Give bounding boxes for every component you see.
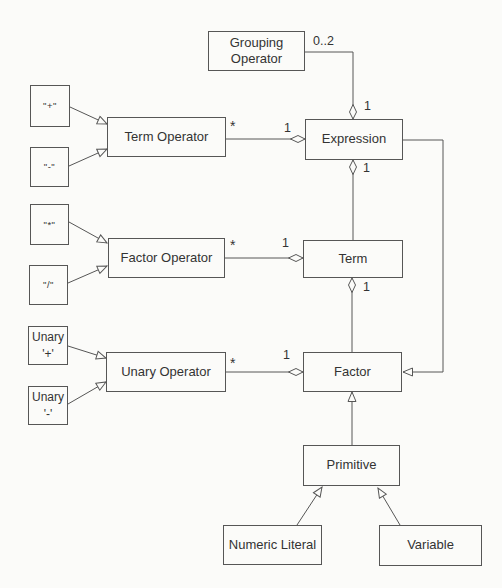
- multiplicity-unary-operator: *: [230, 355, 235, 371]
- class-divide-literal-label: "/": [43, 279, 54, 291]
- class-variable: Variable: [379, 525, 482, 566]
- class-expression: Expression: [305, 119, 403, 160]
- edge-divide-factor-operator-generalization: [68, 266, 107, 283]
- class-unary-minus-line1: Unary: [32, 389, 64, 405]
- class-unary-plus-line2: '+': [42, 346, 54, 362]
- multiplicity-factor-left: 1: [283, 348, 290, 362]
- class-unary-plus: Unary '+': [28, 326, 68, 365]
- class-factor-label: Factor: [334, 364, 371, 380]
- edge-numeric-literal-primitive-generalization: [297, 487, 322, 525]
- class-expression-label: Expression: [322, 131, 386, 147]
- edge-unary-plus-unary-operator-generalization: [68, 346, 106, 358]
- class-divide-literal: "/": [29, 265, 68, 305]
- class-unary-minus-line2: '-': [44, 406, 53, 422]
- edge-expression-factor-generalization: [403, 140, 443, 372]
- class-variable-label: Variable: [407, 537, 454, 553]
- class-unary-plus-line1: Unary: [32, 329, 64, 345]
- class-unary-minus: Unary '-': [28, 386, 68, 425]
- class-term-operator-label: Term Operator: [125, 129, 209, 145]
- class-plus-literal-label: "+": [43, 100, 57, 112]
- uml-class-diagram: Grouping Operator "+" Term Operator Expr…: [0, 0, 502, 588]
- class-unary-operator: Unary Operator: [106, 352, 226, 392]
- class-factor-operator-label: Factor Operator: [121, 250, 213, 266]
- connector-layer: [0, 0, 502, 588]
- class-times-literal: "*": [30, 204, 69, 245]
- class-term-operator: Term Operator: [107, 117, 226, 157]
- edge-grouping-operator-expression: [305, 52, 353, 119]
- multiplicity-factor-operator: *: [230, 237, 235, 253]
- multiplicity-expression-top: 1: [364, 99, 371, 113]
- multiplicity-term-bottom: 1: [363, 280, 370, 294]
- edge-variable-primitive-generalization: [378, 488, 400, 525]
- class-term-label: Term: [339, 251, 368, 267]
- class-primitive: Primitive: [303, 445, 400, 486]
- class-times-literal-label: "*": [44, 219, 56, 231]
- multiplicity-term-operator: *: [230, 118, 235, 134]
- class-factor: Factor: [303, 352, 402, 392]
- edge-minus-term-operator-generalization: [69, 149, 107, 166]
- multiplicity-expression-left: 1: [284, 121, 291, 135]
- class-numeric-literal: Numeric Literal: [223, 525, 322, 565]
- class-grouping-operator-label: Grouping Operator: [209, 35, 304, 68]
- class-factor-operator: Factor Operator: [108, 238, 225, 278]
- edge-plus-term-operator-generalization: [70, 107, 107, 124]
- class-numeric-literal-label: Numeric Literal: [229, 537, 316, 553]
- multiplicity-expression-bottom: 1: [363, 161, 370, 175]
- multiplicity-grouping-operator: 0..2: [313, 34, 334, 48]
- class-plus-literal: "+": [30, 85, 70, 127]
- edge-times-factor-operator-generalization: [69, 222, 107, 243]
- class-minus-literal-label: "-": [44, 161, 55, 173]
- class-term: Term: [303, 240, 403, 278]
- multiplicity-term-left: 1: [282, 236, 289, 250]
- class-minus-literal: "-": [30, 147, 69, 187]
- class-unary-operator-label: Unary Operator: [121, 364, 211, 380]
- class-grouping-operator: Grouping Operator: [208, 31, 305, 71]
- class-primitive-label: Primitive: [327, 457, 377, 473]
- edge-unary-minus-unary-operator-generalization: [68, 382, 106, 404]
